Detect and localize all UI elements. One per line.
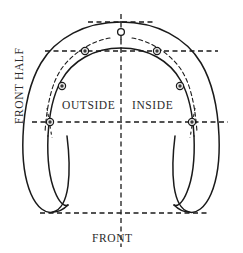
nail-hole-marker-inside-3 bbox=[188, 118, 195, 125]
nail-groove-arc-inside bbox=[132, 38, 197, 132]
nail-hole-marker-outside-2 bbox=[58, 82, 65, 89]
label-front-half: FRONT HALF bbox=[14, 36, 26, 136]
nail-hole-marker-inside-2 bbox=[176, 82, 183, 89]
label-outside: OUTSIDE bbox=[62, 100, 115, 112]
horseshoe-outer-outline bbox=[121, 22, 219, 212]
label-front: FRONT bbox=[92, 233, 133, 245]
nail-groove-arc-outside bbox=[45, 38, 110, 132]
horseshoe-inner-outline bbox=[121, 48, 194, 136]
horseshoe-inner-branch-left bbox=[48, 136, 68, 205]
nail-hole-marker-outside-1 bbox=[81, 47, 88, 54]
nail-hole-marker-inside-1 bbox=[153, 47, 160, 54]
label-inside: INSIDE bbox=[132, 100, 173, 112]
figure-canvas: FRONT HALF OUTSIDE INSIDE FRONT bbox=[0, 0, 243, 253]
horseshoe-inner-outline-left bbox=[48, 48, 121, 136]
horseshoe-inner-branch-right bbox=[174, 136, 194, 205]
toe-clip-hole-icon bbox=[118, 29, 125, 36]
horseshoe-diagram bbox=[0, 0, 243, 253]
nail-hole-marker-outside-3 bbox=[46, 118, 53, 125]
